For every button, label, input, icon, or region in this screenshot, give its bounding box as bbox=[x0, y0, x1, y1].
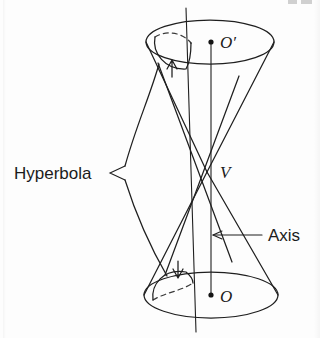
cone-hyperbola-diagram: Hyperbola Axis V O′ O bbox=[0, 0, 320, 338]
figure-canvas: Hyperbola Axis V O′ O bbox=[0, 0, 320, 338]
axis-leader bbox=[213, 231, 262, 239]
upper-left-slant bbox=[146, 42, 207, 172]
lower-apex-label: O bbox=[220, 287, 232, 306]
upper-section-hidden-arc bbox=[155, 33, 191, 43]
hyperbola-leader-fork-icon bbox=[110, 166, 125, 180]
cropped-corner-mark bbox=[288, 0, 312, 4]
hyperbola-curves bbox=[125, 64, 167, 276]
hyperbola-label: Hyperbola bbox=[14, 164, 92, 183]
upper-apex-label: O′ bbox=[220, 33, 236, 52]
hyperbola-upper-branch bbox=[125, 64, 159, 166]
upper-section-visible-arc bbox=[155, 37, 191, 69]
lower-left-slant bbox=[144, 172, 207, 295]
upper-center-dot bbox=[208, 39, 213, 44]
vertex-label: V bbox=[220, 163, 233, 182]
axis-label: Axis bbox=[268, 226, 300, 245]
lower-section-hidden-arc bbox=[153, 283, 193, 300]
cutting-plane-trace bbox=[186, 8, 196, 332]
cutting-plane-line bbox=[186, 8, 196, 332]
lower-center-dot bbox=[208, 292, 213, 297]
hyperbola-leader bbox=[110, 166, 125, 180]
upper-section-curve bbox=[155, 33, 191, 69]
